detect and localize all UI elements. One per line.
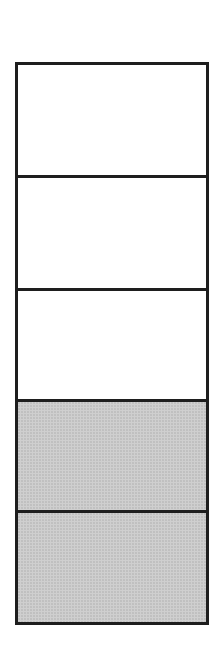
cell-filled-2 bbox=[18, 510, 206, 622]
cell-empty-3 bbox=[18, 288, 206, 399]
cell-stack bbox=[15, 62, 209, 625]
cell-empty-2 bbox=[18, 175, 206, 288]
cell-filled-1 bbox=[18, 399, 206, 510]
cell-empty-1 bbox=[18, 65, 206, 175]
